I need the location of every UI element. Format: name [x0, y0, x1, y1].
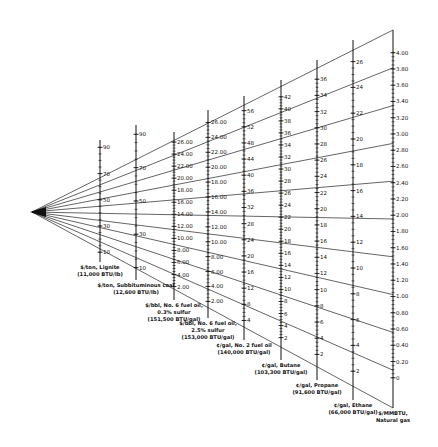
tick-label: 28 — [247, 221, 254, 227]
scale-natural-gas: 4.003.803.603.403.203.002.802.602.402.20… — [391, 30, 409, 408]
tick-label: 30 — [139, 231, 146, 237]
scale-propane: 36343230282624222018161412108642 — [315, 60, 328, 380]
tick-label: 30 — [284, 166, 291, 172]
tick-label: 14 — [356, 213, 363, 219]
tick-label: 0.80 — [396, 310, 409, 316]
tick-label: 22.00 — [211, 149, 227, 155]
tick-label: 24 — [247, 237, 254, 243]
tick-label: 4 — [356, 342, 360, 348]
tick-label: 0.40 — [396, 342, 409, 348]
tick-label: 28 — [284, 178, 291, 184]
tick-label: 24 — [284, 202, 291, 208]
scale-ethane: 2624222018161412108642 — [351, 40, 364, 400]
caption-subbituminous: $/ton, Subbituminous coal(12,600 BTU/lb) — [96, 282, 176, 296]
tick-label: 3.80 — [396, 66, 409, 72]
tick-label: 40 — [247, 172, 254, 178]
tick-label: 1.20 — [396, 277, 409, 283]
tick-label: 18 — [320, 222, 327, 228]
caption-propane: ¢/gal, Propane(91,600 BTU/gal) — [277, 382, 357, 396]
tick-label: 10 — [356, 265, 363, 271]
tick-label: 6 — [320, 319, 324, 325]
tick-label: 1.60 — [396, 245, 409, 251]
tick-label: 70 — [103, 171, 110, 177]
tick-label: 8 — [284, 298, 288, 304]
tick-label: 26.00 — [177, 139, 193, 145]
tick-label: 8 — [247, 301, 251, 307]
caption-fuel-oil-6-high: $/bbl, No. 6 fuel oil,2.5% sulfur(153,00… — [168, 320, 248, 341]
tick-label: 12 — [320, 270, 327, 276]
caption-lignite: $/ton, Lignite(11,000 BTU/lb) — [60, 264, 140, 278]
tick-label: 4.00 — [177, 272, 190, 278]
tick-label: 8.00 — [211, 254, 224, 260]
tick-label: 8.00 — [177, 247, 190, 253]
tick-label: 40 — [284, 106, 291, 112]
tick-label: 8 — [356, 291, 360, 297]
tick-label: 2.00 — [177, 284, 190, 290]
tick-label: 34 — [320, 92, 327, 98]
tick-label: 18 — [284, 238, 291, 244]
tick-label: 16.00 — [211, 194, 227, 200]
tick-label: 32 — [320, 109, 327, 115]
tick-label: 30 — [103, 223, 110, 229]
tick-label: 12 — [284, 274, 291, 280]
tick-label: 28 — [320, 141, 327, 147]
tick-label: 10 — [103, 249, 110, 255]
tick-label: 50 — [103, 197, 110, 203]
tick-label: 22 — [284, 214, 291, 220]
tick-label: 6.00 — [177, 259, 190, 265]
tick-label: 36 — [247, 188, 254, 194]
tick-label: 2.20 — [396, 196, 409, 202]
tick-label: 44 — [247, 156, 254, 162]
tick-label: 4.00 — [396, 50, 409, 56]
tick-label: 0.60 — [396, 326, 409, 332]
tick-label: 10 — [139, 265, 146, 271]
tick-label: 12 — [247, 285, 254, 291]
tick-label: 18.00 — [177, 187, 193, 193]
tick-label: 6 — [284, 311, 288, 317]
tick-label: 20 — [356, 136, 363, 142]
tick-label: 24 — [320, 173, 327, 179]
tick-label: 20 — [284, 226, 291, 232]
tick-label: 1.80 — [396, 228, 409, 234]
tick-label: 20.00 — [211, 164, 227, 170]
tick-label: 50 — [139, 198, 146, 204]
caption-butane: ¢/gal, Butane(103,300 BTU/gal) — [241, 362, 321, 376]
tick-label: 2.80 — [396, 147, 409, 153]
tick-label: 16 — [284, 250, 291, 256]
tick-label: 36 — [284, 130, 291, 136]
tick-label: 14.00 — [211, 209, 227, 215]
tick-label: 10.00 — [211, 239, 227, 245]
tick-label: 16.00 — [177, 199, 193, 205]
tick-label: 2 — [284, 335, 288, 341]
tick-label: 3.60 — [396, 82, 409, 88]
tick-label: 0 — [396, 375, 400, 381]
tick-label: 38 — [284, 118, 291, 124]
tick-label: 26.00 — [211, 119, 227, 125]
tick-label: 26 — [284, 190, 291, 196]
tick-label: 4.00 — [211, 283, 224, 289]
tick-label: 34 — [284, 142, 291, 148]
tick-label: 6.00 — [211, 269, 224, 275]
scale-butane: 42403836343230282624222018161412108642 — [279, 80, 292, 360]
tick-label: 16 — [356, 188, 363, 194]
caption-fuel-oil-2: ¢/gal, No. 2 fuel oil(140,000 BTU/gal) — [204, 342, 284, 356]
tick-label: 20.00 — [177, 175, 193, 181]
tick-label: 18 — [356, 162, 363, 168]
tick-label: 56 — [247, 108, 254, 114]
tick-label: 32 — [247, 204, 254, 210]
caption-natural-gas: $/MMBTU,Natural gas — [353, 410, 433, 424]
scale-fuel-oil-2: 56524844403632282420161284 — [242, 96, 255, 340]
tick-label: 30 — [320, 125, 327, 131]
tick-label: 16 — [247, 269, 254, 275]
tick-label: 16 — [320, 238, 327, 244]
tick-label: 26 — [356, 59, 363, 65]
tick-label: 14.00 — [177, 211, 193, 217]
tick-label: 8 — [320, 303, 324, 309]
tick-label: 4 — [320, 335, 324, 341]
tick-label: 12.00 — [211, 224, 227, 230]
tick-label: 20 — [247, 253, 254, 259]
nomograph-canvas: 9070503010907050301026.0024.0022.0020.00… — [0, 0, 438, 447]
tick-label: 6 — [356, 317, 360, 323]
ray-line — [32, 212, 393, 257]
tick-label: 14 — [320, 254, 327, 260]
